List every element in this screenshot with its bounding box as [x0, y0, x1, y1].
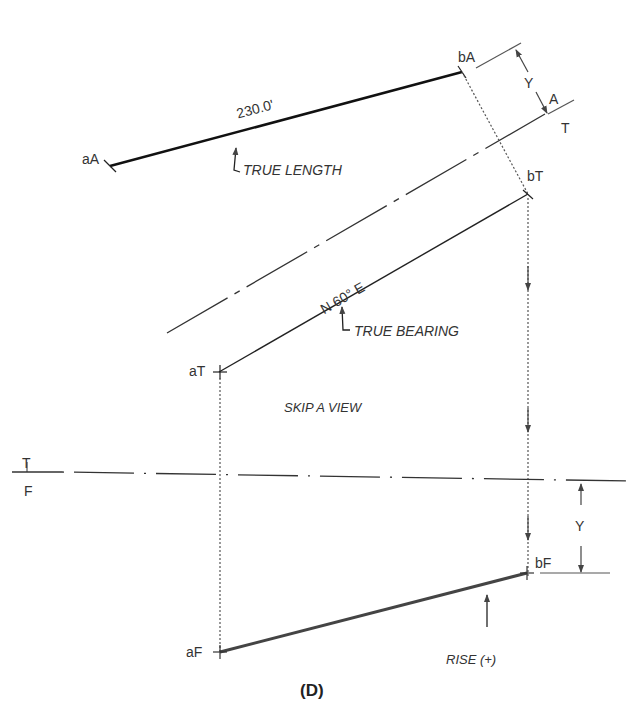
label-bA: bA — [458, 50, 475, 64]
label-aF: aF — [186, 645, 202, 659]
y-aux-arrow-down — [536, 92, 547, 113]
label-y-aux: Y — [524, 76, 533, 90]
y-extension-top — [476, 43, 521, 68]
label-rise: RISE (+) — [446, 653, 496, 666]
label-fold-t: T — [561, 121, 570, 135]
label-aA: aA — [82, 152, 99, 166]
label-bF: bF — [535, 556, 551, 570]
label-fold-a: A — [549, 92, 558, 106]
label-fold-f: F — [24, 484, 33, 498]
reference-line-t-f — [62, 472, 630, 481]
label-skip-view: SKIP A VIEW — [284, 401, 361, 414]
point-bT-tick — [523, 190, 533, 199]
true-length-line — [110, 72, 462, 166]
projection-bA-bT — [462, 72, 528, 194]
true-length-leader — [234, 148, 240, 172]
front-view-line — [220, 573, 527, 652]
figure-caption: (D) — [300, 682, 324, 699]
label-bT: bT — [527, 169, 543, 183]
label-fold-t-front: T — [22, 456, 31, 470]
label-aT: aT — [189, 364, 205, 378]
label-y-front: Y — [575, 519, 584, 533]
label-true-length: TRUE LENGTH — [243, 163, 342, 177]
descriptive-geometry-diagram — [0, 0, 632, 720]
y-aux-arrow-up — [516, 50, 528, 72]
label-true-bearing: TRUE BEARING — [354, 324, 459, 338]
reference-line-t-a — [167, 114, 545, 333]
true-bearing-leader — [342, 307, 350, 330]
true-bearing-line — [219, 194, 528, 372]
